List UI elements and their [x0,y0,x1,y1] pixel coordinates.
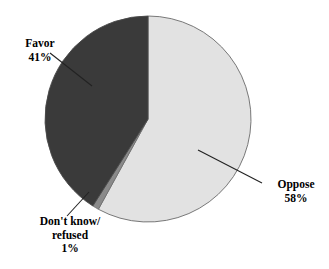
slice-label-dont-know-refused: Don't know/ refused 1% [18,215,122,256]
leader-line-dont-know [67,192,89,216]
slice-label-oppose-value: 58% [265,192,327,206]
slice-label-oppose: Oppose 58% [265,178,327,205]
slice-label-oppose-name: Oppose [265,178,327,192]
slice-label-dont-know-line2: refused [18,229,122,243]
slice-label-dont-know-value: 1% [18,242,122,256]
pie-chart-figure: Favor 41% Oppose 58% Don't know/ refused… [0,0,329,269]
slice-label-dont-know-line1: Don't know/ [18,215,122,229]
slice-label-favor-name: Favor [10,37,70,51]
slice-label-favor-value: 41% [10,51,70,65]
slice-label-favor: Favor 41% [10,37,70,64]
